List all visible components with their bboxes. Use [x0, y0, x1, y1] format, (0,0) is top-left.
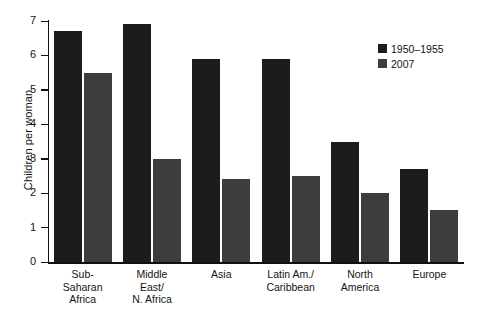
category-label-line: North [325, 268, 394, 281]
y-axis-tick-label: 6 [8, 48, 36, 60]
chart-legend: 1950–19552007 [378, 42, 444, 72]
legend-item: 1950–1955 [378, 42, 444, 55]
y-axis-tick-label: 3 [8, 152, 36, 164]
category-label-line: N. Africa [117, 293, 186, 306]
bar [292, 176, 320, 262]
x-axis-category-label: Sub-SaharanAfrica [48, 268, 117, 306]
y-axis-title: Children per woman [22, 50, 34, 230]
legend-item: 2007 [378, 57, 444, 70]
legend-swatch-icon [378, 59, 387, 68]
bar [123, 24, 151, 262]
y-axis-tick-label: 0 [8, 255, 36, 267]
y-axis-tick-label: 7 [8, 14, 36, 26]
y-axis-tick-label: 5 [8, 83, 36, 95]
bar [361, 193, 389, 262]
legend-label: 2007 [391, 58, 414, 70]
bar-chart: Children per woman 01234567 6.75.56.93.0… [0, 0, 491, 321]
category-label-line: Latin Am./ [256, 268, 325, 281]
x-axis-category-label: MiddleEast/N. Africa [117, 268, 186, 306]
x-axis-category-label: Latin Am./Caribbean [256, 268, 325, 293]
bar-group: 6.93.0 [117, 14, 186, 263]
bar [262, 59, 290, 262]
bar [400, 169, 428, 262]
bar-group: 5.92.4 [187, 14, 256, 263]
category-label-line: America [325, 281, 394, 294]
bar [430, 210, 458, 262]
category-label-line: Middle [117, 268, 186, 281]
bar [84, 73, 112, 262]
y-axis-tick-label: 2 [8, 186, 36, 198]
bar [331, 142, 359, 263]
bar [54, 31, 82, 262]
legend-swatch-icon [378, 44, 387, 53]
y-axis-tick-label: 1 [8, 221, 36, 233]
legend-label: 1950–1955 [391, 43, 444, 55]
category-label-line: Sub- [48, 268, 117, 281]
bar [192, 59, 220, 262]
x-axis-category-label: Asia [187, 268, 256, 281]
category-label-line: Europe [395, 268, 464, 281]
y-axis-tick-label: 4 [8, 117, 36, 129]
bar-group: 5.92.5 [256, 14, 325, 263]
x-axis-category-label: NorthAmerica [325, 268, 394, 293]
bar [222, 179, 250, 262]
bar [153, 159, 181, 262]
category-label-line: Caribbean [256, 281, 325, 294]
category-label-line: East/ [117, 281, 186, 294]
category-label-line: Africa [48, 293, 117, 306]
bar-group: 6.75.5 [48, 14, 117, 263]
category-label-line: Saharan [48, 281, 117, 294]
x-axis-category-label: Europe [395, 268, 464, 281]
category-label-line: Asia [187, 268, 256, 281]
